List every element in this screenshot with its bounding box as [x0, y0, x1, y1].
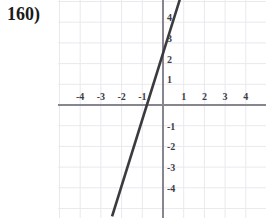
gridlines-vertical — [60, 0, 246, 218]
y-tick-label: 2 — [167, 55, 172, 65]
y-tick-label: 4 — [167, 13, 172, 23]
y-tick-label: -1 — [167, 122, 175, 132]
y-tick-label: -2 — [167, 142, 175, 152]
y-tick-label: 1 — [167, 75, 172, 85]
plot-svg — [58, 0, 266, 218]
x-tick-label: -1 — [138, 92, 146, 102]
x-tick-label: 4 — [243, 92, 248, 102]
x-tick-label: 2 — [202, 92, 207, 102]
x-tick-label: -3 — [97, 92, 105, 102]
y-tick-label: -4 — [167, 184, 175, 194]
y-tick-label: 3 — [167, 34, 172, 44]
graph-screenshot: 160) -4-3-2-112344321-1-2-3-4 — [0, 0, 269, 218]
x-tick-label: -4 — [76, 92, 84, 102]
problem-number-label: 160) — [7, 4, 40, 24]
x-tick-label: 1 — [181, 92, 186, 102]
x-tick-label: -2 — [117, 92, 125, 102]
y-tick-label: -3 — [167, 163, 175, 173]
coordinate-plane — [58, 0, 266, 218]
x-tick-label: 3 — [223, 92, 228, 102]
